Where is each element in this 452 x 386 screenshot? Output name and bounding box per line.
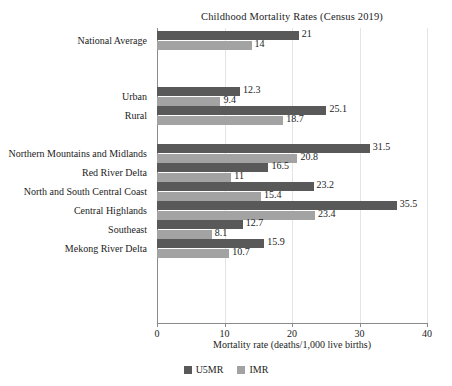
category-axis-labels: National AverageUrbanRuralNorthern Mount… bbox=[0, 28, 152, 323]
x-tick-mark bbox=[427, 324, 428, 327]
x-tick-label: 40 bbox=[422, 328, 432, 339]
x-tick-mark bbox=[157, 324, 158, 327]
x-tick-mark bbox=[225, 324, 226, 327]
bar-u5mr[interactable] bbox=[157, 31, 299, 40]
category-label: National Average bbox=[0, 35, 152, 46]
category-label: Urban bbox=[0, 91, 152, 102]
bar-value-label: 31.5 bbox=[370, 141, 391, 152]
bar-imr[interactable] bbox=[157, 116, 283, 125]
bar-row: 11 bbox=[157, 173, 427, 182]
bar-value-label: 15.4 bbox=[261, 189, 282, 200]
bar-group: 16.511 bbox=[157, 163, 427, 183]
bar-imr[interactable] bbox=[157, 97, 220, 106]
bar-imr[interactable] bbox=[157, 173, 231, 182]
bar-row: 12.7 bbox=[157, 220, 427, 229]
category-label: Red River Delta bbox=[0, 167, 152, 178]
bar-value-label: 23.4 bbox=[315, 208, 336, 219]
bar-value-label: 15.9 bbox=[264, 236, 285, 247]
bar-group: 31.520.8 bbox=[157, 144, 427, 164]
bar-imr[interactable] bbox=[157, 41, 252, 50]
bar-row: 23.2 bbox=[157, 182, 427, 191]
bar-value-label: 12.7 bbox=[243, 217, 264, 228]
category-label: Central Highlands bbox=[0, 205, 152, 216]
bar-group: 12.39.4 bbox=[157, 87, 427, 107]
bar-u5mr[interactable] bbox=[157, 201, 397, 210]
legend-swatch-icon bbox=[184, 366, 192, 374]
bar-u5mr[interactable] bbox=[157, 163, 268, 172]
bar-row: 15.4 bbox=[157, 192, 427, 201]
bar-value-label: 35.5 bbox=[397, 198, 418, 209]
x-tick-mark bbox=[360, 324, 361, 327]
x-tick-label: 10 bbox=[220, 328, 230, 339]
bar-u5mr[interactable] bbox=[157, 182, 314, 191]
bar-row: 8.1 bbox=[157, 230, 427, 239]
bar-row: 9.4 bbox=[157, 97, 427, 106]
legend-swatch-icon bbox=[237, 366, 245, 374]
bar-group: 35.523.4 bbox=[157, 201, 427, 221]
bar-value-label: 12.3 bbox=[240, 84, 261, 95]
bar-group: 25.118.7 bbox=[157, 106, 427, 126]
bar-group: 15.910.7 bbox=[157, 239, 427, 259]
legend-label: IMR bbox=[249, 364, 268, 375]
bar-imr[interactable] bbox=[157, 192, 261, 201]
chart-legend: U5MRIMR bbox=[0, 364, 452, 375]
x-tick-mark bbox=[292, 324, 293, 327]
bar-group: 2114 bbox=[157, 31, 427, 51]
bar-group: 12.78.1 bbox=[157, 220, 427, 240]
bar-value-label: 14 bbox=[252, 38, 265, 49]
bar-row: 18.7 bbox=[157, 116, 427, 125]
bar-value-label: 16.5 bbox=[268, 160, 289, 171]
category-label: Mekong River Delta bbox=[0, 243, 152, 254]
x-tick-label: 20 bbox=[287, 328, 297, 339]
category-label: Northern Mountains and Midlands bbox=[0, 148, 152, 159]
x-axis-title: Mortality rate (deaths/1,000 live births… bbox=[157, 339, 427, 350]
category-label: North and South Central Coast bbox=[0, 186, 152, 197]
bar-imr[interactable] bbox=[157, 230, 212, 239]
bar-value-label: 18.7 bbox=[283, 113, 304, 124]
bar-row: 21 bbox=[157, 31, 427, 40]
chart-title: Childhood Mortality Rates (Census 2019) bbox=[157, 11, 427, 22]
bar-value-label: 10.7 bbox=[229, 246, 250, 257]
plot-area: 211412.39.425.118.731.520.816.51123.215.… bbox=[157, 28, 427, 323]
bar-u5mr[interactable] bbox=[157, 144, 370, 153]
bar-value-label: 25.1 bbox=[326, 103, 347, 114]
bar-row: 14 bbox=[157, 41, 427, 50]
gridline bbox=[427, 28, 428, 323]
bar-row: 15.9 bbox=[157, 239, 427, 248]
category-label: Rural bbox=[0, 110, 152, 121]
chart-container: Childhood Mortality Rates (Census 2019) … bbox=[0, 0, 452, 386]
bar-imr[interactable] bbox=[157, 211, 315, 220]
bar-value-label: 23.2 bbox=[314, 179, 335, 190]
x-tick-label: 0 bbox=[155, 328, 160, 339]
bar-row: 12.3 bbox=[157, 87, 427, 96]
bar-row: 16.5 bbox=[157, 163, 427, 172]
bar-value-label: 9.4 bbox=[220, 94, 236, 105]
bar-value-label: 8.1 bbox=[212, 227, 228, 238]
legend-item-imr[interactable]: IMR bbox=[237, 364, 268, 375]
x-tick-label: 30 bbox=[355, 328, 365, 339]
bar-group: 23.215.4 bbox=[157, 182, 427, 202]
legend-item-u5mr[interactable]: U5MR bbox=[184, 364, 224, 375]
bar-row: 10.7 bbox=[157, 249, 427, 258]
bar-row: 20.8 bbox=[157, 154, 427, 163]
bar-value-label: 21 bbox=[299, 28, 312, 39]
bar-value-label: 11 bbox=[231, 170, 244, 181]
bar-imr[interactable] bbox=[157, 249, 229, 258]
x-axis-ticks: 010203040 bbox=[157, 324, 427, 340]
bar-row: 23.4 bbox=[157, 211, 427, 220]
category-label: Southeast bbox=[0, 224, 152, 235]
legend-label: U5MR bbox=[196, 364, 224, 375]
bar-u5mr[interactable] bbox=[157, 220, 243, 229]
bar-row: 35.5 bbox=[157, 201, 427, 210]
bar-row: 31.5 bbox=[157, 144, 427, 153]
bar-value-label: 20.8 bbox=[297, 151, 318, 162]
